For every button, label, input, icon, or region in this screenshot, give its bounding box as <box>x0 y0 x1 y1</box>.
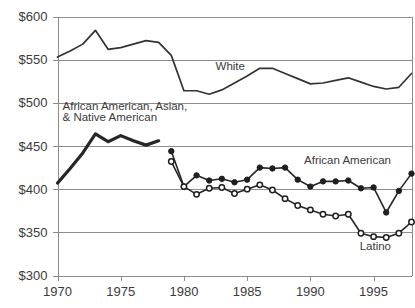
data-point <box>194 192 199 197</box>
line-chart: $600$550$500$450$400$350$300 19701975198… <box>0 0 415 308</box>
data-point <box>219 185 224 190</box>
data-point <box>358 186 363 191</box>
series-annotations: WhiteAfrican American, Asian,& Native Am… <box>63 60 391 252</box>
data-point <box>346 178 351 183</box>
series-african-american-asian-native-american <box>58 134 159 183</box>
data-point <box>409 219 414 224</box>
data-point <box>346 212 351 217</box>
x-axis-label-1980: 1980 <box>169 284 198 299</box>
data-point <box>282 196 287 201</box>
chart-canvas: $600$550$500$450$400$350$300 19701975198… <box>0 0 415 308</box>
data-point <box>181 184 186 189</box>
annotation-native-american: & Native American <box>63 111 158 123</box>
data-point <box>320 179 325 184</box>
y-axis-label-600: $600 <box>19 9 48 24</box>
data-point <box>295 177 300 182</box>
y-axis-label-300: $300 <box>19 268 48 283</box>
data-point <box>282 165 287 170</box>
data-point <box>257 165 262 170</box>
axes <box>53 17 413 281</box>
data-point <box>295 203 300 208</box>
data-point <box>169 159 174 164</box>
data-point <box>244 186 249 191</box>
y-axis-label-400: $400 <box>19 182 48 197</box>
data-point <box>207 178 212 183</box>
data-point <box>371 234 376 239</box>
data-point <box>244 177 249 182</box>
y-axis-label-500: $500 <box>19 95 48 110</box>
data-point <box>194 173 199 178</box>
data-point <box>396 188 401 193</box>
data-point <box>320 212 325 217</box>
data-point <box>270 187 275 192</box>
y-axis-label-350: $350 <box>19 225 48 240</box>
annotation-latino: Latino <box>360 240 391 252</box>
x-axis-label-1970: 1970 <box>43 284 72 299</box>
annotation-white: White <box>216 60 245 72</box>
data-point <box>396 230 401 235</box>
data-point <box>207 186 212 191</box>
data-point <box>308 184 313 189</box>
data-point <box>333 213 338 218</box>
data-point <box>169 148 174 153</box>
data-point <box>358 230 363 235</box>
data-point <box>384 210 389 215</box>
data-point <box>308 207 313 212</box>
y-axis-label-450: $450 <box>19 139 48 154</box>
data-point <box>219 176 224 181</box>
x-axis-label-1975: 1975 <box>106 284 135 299</box>
data-point <box>232 180 237 185</box>
x-axis-tick-labels: 197019751980198519901995 <box>43 284 388 299</box>
series-latino <box>169 159 415 240</box>
data-point <box>371 185 376 190</box>
data-point <box>409 171 414 176</box>
annotation-african-american-asian: African American, Asian, <box>63 100 188 112</box>
x-axis-label-1995: 1995 <box>359 284 388 299</box>
data-point <box>333 179 338 184</box>
x-axis-label-1990: 1990 <box>296 284 325 299</box>
data-point <box>232 191 237 196</box>
data-point <box>270 166 275 171</box>
x-axis-label-1985: 1985 <box>233 284 262 299</box>
y-axis-tick-labels: $600$550$500$450$400$350$300 <box>19 9 48 283</box>
gridlines <box>58 18 412 277</box>
data-point <box>257 182 262 187</box>
series-line <box>58 134 159 183</box>
y-axis-label-550: $550 <box>19 52 48 67</box>
annotation-african-american: African American <box>304 154 391 166</box>
